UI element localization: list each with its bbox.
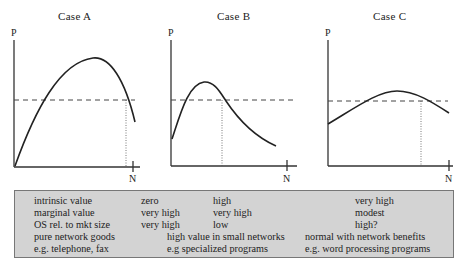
case-b-plot bbox=[171, 40, 297, 171]
case-c-value: e.g. word processing programs bbox=[305, 243, 430, 255]
case-b-p-label: P bbox=[168, 27, 174, 38]
case-c-value: high? bbox=[355, 219, 378, 231]
row-label: pure network goods bbox=[34, 231, 115, 243]
case-c-n-label: N bbox=[445, 173, 452, 184]
case-b-curve bbox=[172, 82, 276, 146]
case-c-value: very high bbox=[355, 195, 394, 207]
case-a-curve bbox=[15, 58, 135, 166]
case-b-value: high value in small networks bbox=[167, 231, 285, 243]
case-a-value: very high bbox=[141, 219, 180, 231]
case-a-title: Case A bbox=[58, 10, 91, 22]
case-b-title: Case B bbox=[217, 10, 250, 22]
case-b-value: high bbox=[213, 195, 231, 207]
comparison-table: intrinsic value zero high very high marg… bbox=[14, 190, 454, 258]
case-c-p-label: P bbox=[325, 27, 331, 38]
case-c-plot bbox=[328, 40, 453, 171]
row-label: intrinsic value bbox=[34, 195, 92, 207]
case-a-p-label: P bbox=[11, 27, 17, 38]
row-label: OS rel. to mkt size bbox=[34, 219, 110, 231]
case-a-value: very high bbox=[141, 207, 180, 219]
row-label: e.g. telephone, fax bbox=[34, 243, 109, 255]
case-b-value: low bbox=[213, 219, 228, 231]
case-a-n-label: N bbox=[129, 173, 136, 184]
case-c-curve bbox=[328, 91, 449, 124]
case-a-value: zero bbox=[141, 195, 159, 207]
case-c-value: normal with network benefits bbox=[305, 231, 425, 243]
case-a-plot bbox=[14, 40, 140, 172]
case-b-value: e.g specialized programs bbox=[167, 243, 268, 255]
case-b-n-label: N bbox=[283, 173, 290, 184]
case-c-title: Case C bbox=[373, 10, 406, 22]
row-label: marginal value bbox=[34, 207, 95, 219]
case-b-value: very high bbox=[213, 207, 252, 219]
case-c-value: modest bbox=[355, 207, 384, 219]
